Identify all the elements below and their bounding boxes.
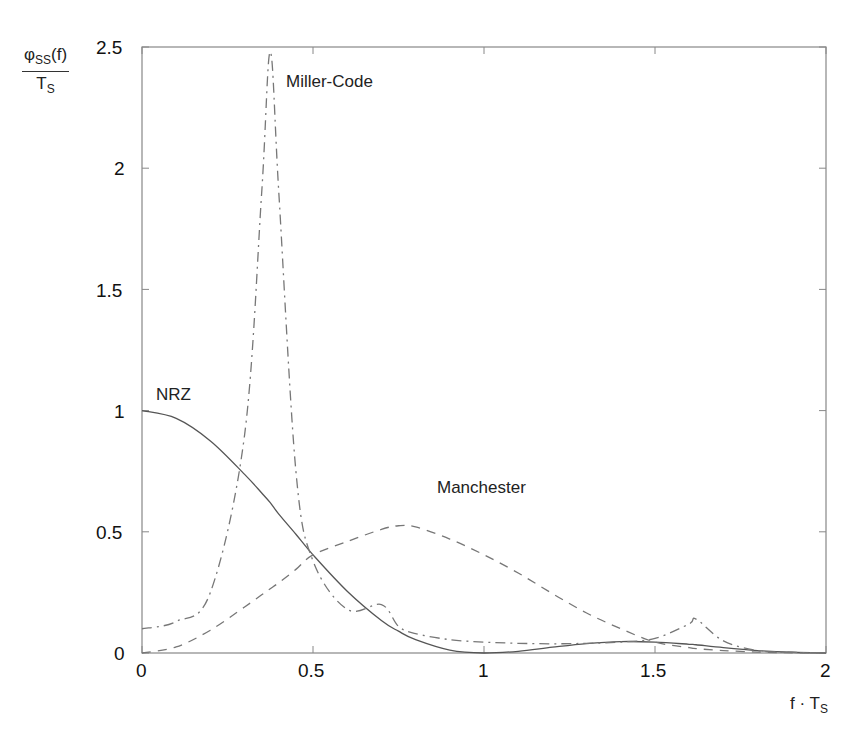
y-tick-1.5: 1.5 [96, 280, 122, 302]
x-tick-2: 2 [820, 660, 831, 682]
y-tick-0: 0 [114, 643, 125, 665]
y-tick-2: 2 [114, 158, 125, 180]
plot-frame [142, 47, 826, 653]
x-tick-0: 0 [136, 660, 147, 682]
axis-ticks [142, 47, 826, 653]
x-axis-label: f · TS [790, 694, 828, 716]
annotation-nrz: NRZ [156, 385, 191, 405]
y-tick-2.5: 2.5 [96, 37, 122, 59]
series-manchester [142, 525, 826, 653]
series-group [142, 52, 826, 653]
y-axis-label: φSS(f) TS [22, 44, 69, 101]
annotation-manchester: Manchester [437, 478, 526, 498]
annotation-miller-code: Miller-Code [286, 72, 373, 92]
series-miller-code [142, 52, 826, 653]
x-tick-0.5: 0.5 [298, 660, 324, 682]
psd-chart [0, 0, 865, 744]
y-tick-1: 1 [114, 401, 125, 423]
y-tick-0.5: 0.5 [96, 522, 122, 544]
x-tick-1.5: 1.5 [640, 660, 666, 682]
series-nrz [142, 411, 826, 653]
x-tick-1: 1 [478, 660, 489, 682]
